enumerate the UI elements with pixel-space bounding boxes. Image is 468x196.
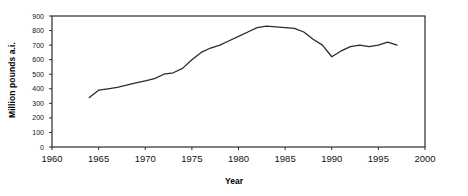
axes: [49, 16, 425, 150]
plot-area: [0, 0, 468, 196]
data-series: [89, 26, 397, 97]
line-chart: Million pounds a.i. Year 010020030040050…: [0, 0, 468, 196]
